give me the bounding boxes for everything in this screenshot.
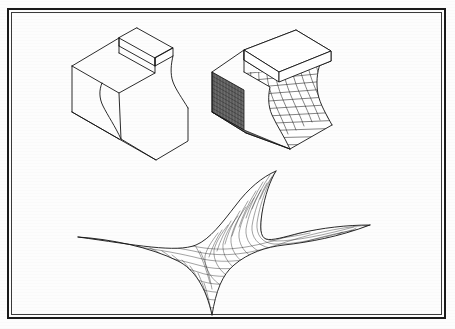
panel-saddle-surface — [70, 165, 400, 320]
panel-wireframe-block — [55, 20, 215, 165]
wireframe-floor — [72, 93, 188, 160]
mesh-block-drawing — [200, 20, 360, 165]
wireframe-fillet-left — [100, 83, 121, 139]
wireframe-inner-ledge — [72, 46, 155, 93]
saddle-surface-drawing — [70, 165, 400, 320]
wireframe-fillet-right — [171, 56, 188, 108]
wireframe-back-edge — [137, 28, 155, 66]
figure-page: Three-panel geometric rendering plate Wi… — [0, 0, 455, 329]
panel-mesh-block — [200, 20, 360, 165]
wireframe-block-drawing — [55, 20, 215, 165]
wireframe-top-slab — [119, 28, 173, 66]
